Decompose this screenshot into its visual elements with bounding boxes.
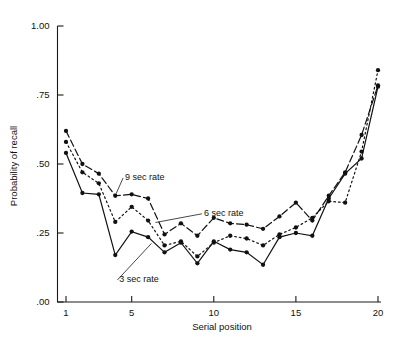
data-point	[130, 192, 134, 196]
data-point	[343, 200, 347, 204]
data-point	[261, 243, 265, 247]
x-axis-title: Serial position	[192, 321, 252, 332]
data-point	[310, 216, 314, 220]
data-point	[359, 156, 363, 160]
data-point	[376, 68, 380, 72]
data-point	[64, 129, 68, 133]
x-tick-label-0: 1	[63, 307, 68, 318]
data-point	[97, 181, 101, 185]
data-point	[113, 253, 117, 257]
x-tick-label-3: 15	[291, 307, 302, 318]
data-point	[327, 196, 331, 200]
data-point	[359, 133, 363, 137]
series-line-2	[66, 87, 378, 265]
data-point	[80, 170, 84, 174]
data-point	[261, 263, 265, 267]
data-point	[162, 243, 166, 247]
data-point	[294, 225, 298, 229]
series-label-3-sec-rate: 3 sec rate	[119, 274, 159, 284]
leader-line-0	[116, 178, 123, 194]
y-axis-title: Probability of recall	[8, 126, 19, 206]
data-series-layer	[64, 68, 380, 267]
data-point	[228, 247, 232, 251]
data-point	[97, 172, 101, 176]
x-axis-tick-labels: 15101520	[63, 307, 383, 318]
series-line-1	[66, 70, 378, 256]
axis-lines	[58, 26, 382, 302]
data-point	[261, 227, 265, 231]
data-point	[244, 236, 248, 240]
y-tick-label-3: .75	[36, 89, 49, 100]
series-6-sec-rate	[64, 68, 380, 259]
data-point	[146, 218, 150, 222]
data-point	[244, 223, 248, 227]
x-tick-label-4: 20	[373, 307, 384, 318]
data-point	[228, 234, 232, 238]
data-point	[277, 235, 281, 239]
data-point	[195, 254, 199, 258]
y-tick-label-0: .00	[36, 296, 49, 307]
data-point	[179, 221, 183, 225]
data-point	[310, 234, 314, 238]
series-label-6-sec-rate: 6 sec rate	[204, 208, 244, 218]
data-point	[80, 191, 84, 195]
data-point	[294, 200, 298, 204]
data-point	[376, 85, 380, 89]
chart-canvas: .00.25.50.751.00 15101520 Probability of…	[0, 0, 398, 343]
data-point	[97, 192, 101, 196]
x-tick-label-2: 10	[209, 307, 220, 318]
data-point	[64, 140, 68, 144]
series-label-9-sec-rate: 9 sec rate	[125, 172, 165, 182]
data-point	[195, 261, 199, 265]
data-point	[162, 232, 166, 236]
data-point	[195, 234, 199, 238]
x-tick-label-1: 5	[129, 307, 134, 318]
data-point	[80, 162, 84, 166]
data-point	[277, 214, 281, 218]
y-axis-tick-labels: .00.25.50.751.00	[31, 20, 50, 307]
data-point	[179, 241, 183, 245]
data-point	[113, 220, 117, 224]
y-tick-label-1: .25	[36, 227, 49, 238]
data-point	[146, 235, 150, 239]
data-point	[113, 194, 117, 198]
y-tick-label-2: .50	[36, 158, 49, 169]
y-tick-label-4: 1.00	[31, 20, 50, 31]
series-annotations-layer: 9 sec rate6 sec rate3 sec rate	[116, 172, 243, 284]
data-point	[130, 205, 134, 209]
data-point	[343, 172, 347, 176]
data-point	[130, 229, 134, 233]
x-axis-ticks	[66, 296, 378, 302]
data-point	[244, 250, 248, 254]
data-point	[294, 231, 298, 235]
serial-position-chart-figure: .00.25.50.751.00 15101520 Probability of…	[0, 0, 398, 343]
data-point	[64, 151, 68, 155]
plot-axes	[58, 26, 382, 302]
data-point	[228, 221, 232, 225]
data-point	[162, 250, 166, 254]
data-point	[146, 196, 150, 200]
y-axis-ticks	[58, 26, 64, 302]
data-point	[212, 239, 216, 243]
leader-line-1	[155, 214, 201, 223]
